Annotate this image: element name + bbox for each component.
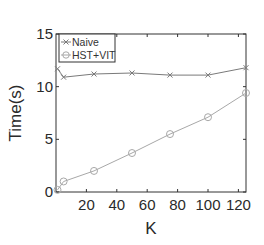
legend-label-naive: Naive <box>72 36 99 48</box>
y-tick-label: 5 <box>45 130 53 147</box>
x-axis-label: K <box>145 219 157 238</box>
series-layer <box>54 65 249 193</box>
y-tick-label: 10 <box>36 78 53 95</box>
line-chart: 20406080100120051015 Time(s) K Naive HST… <box>0 0 264 245</box>
series-naive <box>55 65 248 79</box>
x-tick-label: 60 <box>139 196 156 213</box>
series-hst-vit <box>54 89 249 193</box>
legend-label-hst-vit: HST+VIT <box>72 49 116 61</box>
y-tick-label: 0 <box>45 183 53 200</box>
x-tick-label: 80 <box>169 196 186 213</box>
x-tick-label: 100 <box>195 196 220 213</box>
x-tick-label: 120 <box>226 196 251 213</box>
x-tick-label: 40 <box>108 196 125 213</box>
x-tick-label: 20 <box>78 196 95 213</box>
y-axis-label: Time(s) <box>6 85 25 142</box>
legend: Naive HST+VIT <box>59 34 116 62</box>
y-tick-label: 15 <box>36 25 53 42</box>
